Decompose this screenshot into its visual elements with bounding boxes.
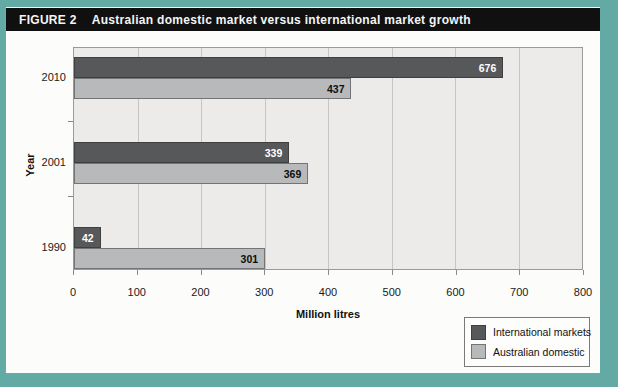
bar-2001-domestic: 369 <box>74 163 308 184</box>
y-tick-label-2001: 2001 <box>6 156 66 168</box>
bar-2010-international: 676 <box>74 57 503 78</box>
bar-value-label: 676 <box>479 62 497 73</box>
x-axis-tick <box>328 270 329 275</box>
plot-area: 67643733936942301 <box>73 47 583 270</box>
legend: International marketsAustralian domestic <box>464 317 590 367</box>
x-tick-label-200: 200 <box>191 286 209 298</box>
figure-number: FIGURE 2 <box>19 13 77 27</box>
y-axis-tick <box>68 196 73 197</box>
bar-value-label: 339 <box>265 147 283 158</box>
legend-swatch-australian-domestic <box>471 344 486 359</box>
x-tick-label-400: 400 <box>319 286 337 298</box>
bar-value-label: 42 <box>82 232 94 243</box>
bar-2001-international: 339 <box>74 142 289 163</box>
bar-1990-domestic: 301 <box>74 248 265 269</box>
y-axis-tick <box>68 121 73 122</box>
x-tick-label-300: 300 <box>255 286 273 298</box>
x-axis-tick <box>583 270 584 275</box>
bar-2010-domestic: 437 <box>74 78 351 99</box>
legend-swatch-international-markets <box>471 325 486 340</box>
bar-value-label: 437 <box>327 83 345 94</box>
gridline <box>519 48 520 269</box>
bar-value-label: 301 <box>241 253 259 264</box>
x-tick-label-700: 700 <box>510 286 528 298</box>
x-tick-label-0: 0 <box>70 286 76 298</box>
x-axis-tick <box>264 270 265 275</box>
gridline <box>455 48 456 269</box>
x-axis-tick <box>137 270 138 275</box>
legend-label: Australian domestic <box>493 346 585 358</box>
x-tick-label-800: 800 <box>574 286 592 298</box>
figure-title: Australian domestic market versus intern… <box>92 13 471 27</box>
figure-panel: FIGURE 2 Australian domestic market vers… <box>5 7 600 374</box>
legend-label: International markets <box>493 326 591 338</box>
x-tick-label-100: 100 <box>128 286 146 298</box>
x-tick-label-600: 600 <box>446 286 464 298</box>
legend-item: Australian domestic <box>471 344 583 359</box>
x-axis-tick <box>519 270 520 275</box>
y-tick-label-2010: 2010 <box>6 71 66 83</box>
x-tick-label-500: 500 <box>383 286 401 298</box>
bar-value-label: 369 <box>284 168 302 179</box>
x-axis-tick <box>392 270 393 275</box>
x-axis-tick <box>73 270 74 275</box>
legend-item: International markets <box>471 325 583 340</box>
x-axis-tick <box>456 270 457 275</box>
gridline <box>392 48 393 269</box>
figure-title-bar: FIGURE 2 Australian domestic market vers… <box>6 8 600 31</box>
y-tick-label-1990: 1990 <box>6 241 66 253</box>
x-axis-tick <box>201 270 202 275</box>
bar-1990-international: 42 <box>74 227 101 248</box>
